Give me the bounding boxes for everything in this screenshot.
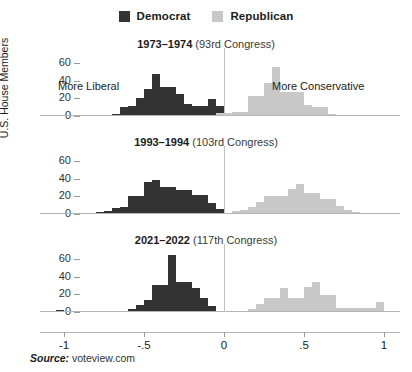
x-tick-label: .5 <box>299 339 309 351</box>
histogram-bar <box>168 87 176 116</box>
histogram-bar <box>280 288 288 312</box>
histogram-bar <box>312 282 320 312</box>
histogram-bar <box>264 83 272 116</box>
histogram-bar <box>152 285 160 312</box>
panel-title-congress: (103rd Congress) <box>192 136 278 148</box>
x-tick-mark <box>384 332 385 337</box>
histogram-bar <box>208 99 216 116</box>
x-tick-label: -.5 <box>137 339 150 351</box>
panel-title-years: 1993–1994 <box>134 136 189 148</box>
histogram-bar <box>256 96 264 116</box>
histogram-bar <box>264 196 272 214</box>
chart-figure: Democrat Republican U.S. House Members 1… <box>0 0 412 372</box>
x-tick-mark <box>224 332 225 337</box>
histogram-bar <box>312 193 320 214</box>
histogram-bar <box>288 189 296 214</box>
histogram-bar <box>272 298 280 312</box>
histogram-bar <box>296 92 304 116</box>
legend-entry-republican: Republican <box>212 10 293 22</box>
panel-title-congress: (117th Congress) <box>193 234 277 246</box>
histogram-bar <box>176 190 184 214</box>
histogram-bar <box>168 255 176 312</box>
y-tick-mark <box>74 312 80 313</box>
zero-reference-line <box>224 146 225 214</box>
histogram-bar <box>192 195 200 214</box>
histogram-bar <box>304 287 312 312</box>
legend-label-democrat: Democrat <box>137 10 191 22</box>
histogram-bar <box>160 87 168 116</box>
panel-2021-2022: 2021–2022 (117th Congress) 0204060 <box>0 234 412 330</box>
histogram-bar <box>144 89 152 116</box>
histogram-bar <box>160 285 168 312</box>
histogram-bar <box>288 92 296 116</box>
axis-baseline <box>40 115 400 116</box>
histogram-bar <box>152 74 160 117</box>
histogram-bar <box>200 195 208 214</box>
histogram-bar <box>176 94 184 116</box>
x-tick-label: -1 <box>59 339 69 351</box>
legend-entry-democrat: Democrat <box>119 10 191 22</box>
x-tick-mark <box>64 332 65 337</box>
x-axis: -1-.50.51 <box>40 332 400 354</box>
histogram-bar <box>152 180 160 214</box>
histogram-bar <box>304 193 312 214</box>
bars-container <box>40 152 400 214</box>
histogram-bar <box>296 184 304 214</box>
histogram-bar <box>160 187 168 214</box>
histogram-bar <box>128 196 136 214</box>
panel-1993-1994: 1993–1994 (103rd Congress) 0204060 <box>0 136 412 232</box>
histogram-bar <box>280 196 288 214</box>
zero-reference-line <box>224 48 225 116</box>
histogram-bar <box>136 98 144 116</box>
histogram-bar <box>184 282 192 312</box>
x-axis-line <box>40 332 400 333</box>
chart-legend: Democrat Republican <box>0 10 412 22</box>
histogram-bar <box>320 199 328 214</box>
histogram-bar <box>320 295 328 312</box>
axis-baseline <box>40 311 400 312</box>
histogram-bar <box>168 187 176 214</box>
source-value: voteview.com <box>72 352 135 364</box>
axis-baseline <box>40 213 400 214</box>
plot-area: 0204060 <box>40 152 400 214</box>
zero-reference-line <box>224 244 225 312</box>
bars-container <box>40 250 400 312</box>
annotation-more-liberal: More Liberal <box>58 80 119 92</box>
histogram-bar <box>144 182 152 214</box>
histogram-bar <box>176 282 184 312</box>
panel-title: 1993–1994 (103rd Congress) <box>0 136 412 149</box>
legend-swatch-democrat <box>119 11 130 22</box>
histogram-bar <box>248 96 256 116</box>
source-note: Source: voteview.com <box>30 352 135 364</box>
histogram-bar <box>328 295 336 312</box>
panel-title: 2021–2022 (117th Congress) <box>0 234 412 247</box>
histogram-bar <box>264 298 272 312</box>
plot-area: 0204060 More Liberal More Conservative <box>40 54 400 116</box>
histogram-bar <box>328 199 336 214</box>
histogram-bar <box>200 298 208 312</box>
plot-area: 0204060 <box>40 250 400 312</box>
histogram-bar <box>192 288 200 312</box>
histogram-bar <box>272 196 280 214</box>
panel-title-years: 2021–2022 <box>135 234 190 246</box>
x-tick-label: 1 <box>381 339 387 351</box>
annotation-more-conservative: More Conservative <box>272 80 364 92</box>
y-tick-mark <box>74 116 80 117</box>
histogram-bar <box>280 92 288 116</box>
legend-swatch-republican <box>212 11 223 22</box>
panel-title-congress: (93rd Congress) <box>195 38 274 50</box>
histogram-bar <box>184 190 192 214</box>
source-prefix: Source: <box>30 352 69 364</box>
panel-title-years: 1973–1974 <box>137 38 192 50</box>
legend-label-republican: Republican <box>230 10 293 22</box>
histogram-bar <box>136 196 144 214</box>
y-tick-mark <box>74 214 80 215</box>
panel-title: 1973–1974 (93rd Congress) <box>0 38 412 51</box>
x-tick-label: 0 <box>221 339 227 351</box>
panel-1973-1974: 1973–1974 (93rd Congress) 0204060 More L… <box>0 38 412 134</box>
histogram-bar <box>288 298 296 312</box>
histogram-bar <box>296 298 304 312</box>
x-tick-mark <box>144 332 145 337</box>
x-tick-mark <box>304 332 305 337</box>
